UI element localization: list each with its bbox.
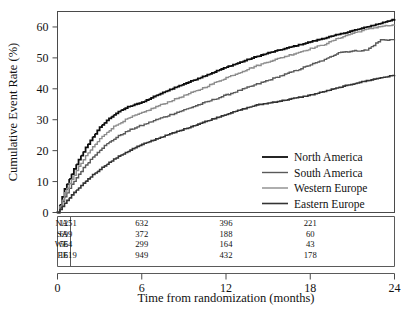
risk-count: 164 xyxy=(220,239,234,249)
cumulative-event-rate-figure: 0102030405060 Cumulative Event Rate (%) … xyxy=(0,0,413,313)
risk-count: 372 xyxy=(135,229,148,239)
x-tick-label: 0 xyxy=(55,281,61,295)
risk-count: 564 xyxy=(60,239,74,249)
y-tick-label: 0 xyxy=(43,206,49,220)
risk-count: 396 xyxy=(220,218,234,228)
y-tick-label: 30 xyxy=(37,113,49,127)
risk-count: 60 xyxy=(306,229,315,239)
legend-label: South America xyxy=(294,167,363,179)
y-axis-title: Cumulative Event Rate (%) xyxy=(6,43,20,182)
x-tick-label: 24 xyxy=(389,281,401,295)
y-tick-label: 10 xyxy=(37,175,49,189)
risk-count: 43 xyxy=(306,239,315,249)
risk-count: 1251 xyxy=(60,218,77,228)
legend-label: North America xyxy=(294,151,363,163)
y-tick-label: 40 xyxy=(37,82,49,96)
y-tick-label: 60 xyxy=(37,20,49,34)
risk-count: 632 xyxy=(135,218,148,228)
x-axis-title: Time from randomization (months) xyxy=(138,291,315,305)
y-tick-label: 50 xyxy=(37,51,49,65)
risk-count: 178 xyxy=(304,250,317,260)
risk-count: 432 xyxy=(220,250,233,260)
chart-svg: 0102030405060 Cumulative Event Rate (%) … xyxy=(0,0,413,313)
y-tick-label: 20 xyxy=(37,144,49,158)
risk-count: 299 xyxy=(135,239,148,249)
legend-label: Eastern Europe xyxy=(294,198,365,211)
risk-count: 699 xyxy=(60,229,73,239)
risk-count: 221 xyxy=(304,218,317,228)
risk-count: 1619 xyxy=(60,250,77,260)
legend-label: Western Europe xyxy=(294,182,367,195)
risk-count: 188 xyxy=(220,229,233,239)
risk-count: 949 xyxy=(135,250,148,260)
